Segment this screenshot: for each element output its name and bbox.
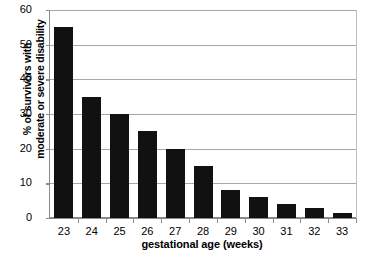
x-axis-tick-mark	[161, 218, 162, 223]
x-axis-tick-label: 28	[189, 225, 217, 237]
x-axis-tick-label: 32	[300, 225, 328, 237]
y-axis-tick-mark	[46, 114, 50, 115]
y-axis-tick-mark	[46, 10, 50, 11]
x-axis-tick-label: 31	[272, 225, 300, 237]
bar	[305, 208, 324, 218]
x-axis-tick-label: 26	[133, 225, 161, 237]
y-axis-title-line-2: moderate or severe disability	[34, 19, 47, 159]
x-axis-tick-label: 29	[217, 225, 245, 237]
bar	[194, 166, 213, 218]
gridline	[50, 79, 356, 80]
x-axis-tick-mark	[106, 218, 107, 223]
y-axis-tick-label: 60	[0, 4, 32, 15]
x-axis-tick-label: 24	[78, 225, 106, 237]
y-axis-tick-mark	[46, 183, 50, 184]
bar	[249, 197, 268, 218]
bar	[221, 190, 240, 218]
y-axis-tick-label: 50	[0, 39, 32, 50]
y-axis-tick-mark	[46, 149, 50, 150]
x-axis-tick-label: 27	[161, 225, 189, 237]
bar	[82, 97, 101, 218]
y-axis-tick-mark	[46, 79, 50, 80]
x-axis-tick-mark	[78, 218, 79, 223]
x-axis-tick-mark	[245, 218, 246, 223]
plot-area: 0102030405060 2324252627282930313233	[49, 10, 357, 218]
y-axis-tick-label: 40	[0, 73, 32, 84]
x-axis-tick-label: 33	[328, 225, 356, 237]
x-axis-tick-label: 30	[245, 225, 273, 237]
x-axis-tick-mark	[356, 218, 357, 223]
bar	[110, 114, 129, 218]
x-axis-tick-mark	[217, 218, 218, 223]
bar	[277, 204, 296, 218]
bar	[333, 213, 352, 218]
gridline	[50, 45, 356, 46]
y-axis-tick-label: 20	[0, 143, 32, 154]
bar	[54, 27, 73, 218]
x-axis-tick-mark	[328, 218, 329, 223]
y-axis-tick-mark	[46, 45, 50, 46]
x-axis-tick-mark	[273, 218, 274, 223]
x-axis-title: gestational age (weeks)	[49, 238, 355, 250]
bar	[166, 149, 185, 218]
bar-chart-figure: % of survivors with moderate or severe d…	[0, 0, 372, 258]
x-axis-tick-label: 23	[50, 225, 78, 237]
x-axis-tick-mark	[189, 218, 190, 223]
y-axis-tick-label: 30	[0, 108, 32, 119]
gridline	[50, 10, 356, 11]
y-axis-tick-label: 0	[0, 212, 32, 223]
bar	[138, 131, 157, 218]
x-axis-tick-label: 25	[106, 225, 134, 237]
x-axis-tick-mark	[133, 218, 134, 223]
x-axis-tick-mark	[300, 218, 301, 223]
y-axis-title-line-1: % of survivors with	[21, 43, 34, 135]
y-axis-tick-label: 10	[0, 177, 32, 188]
y-axis-tick-mark	[46, 218, 50, 219]
